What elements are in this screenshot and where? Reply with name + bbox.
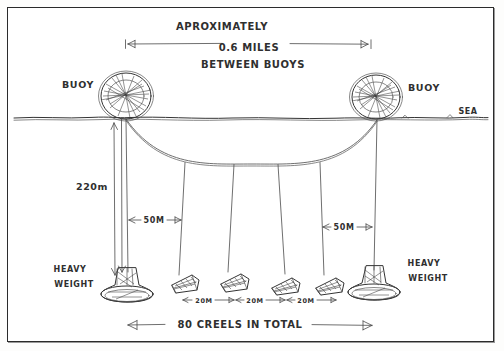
main-rope-catenary bbox=[126, 119, 377, 166]
heavy-weight-right bbox=[348, 266, 400, 300]
span-label-line2: 0.6 MILES bbox=[219, 42, 280, 53]
creel-gap-label-2: 20M bbox=[246, 297, 263, 305]
sea-label: SEA bbox=[458, 107, 477, 116]
total-label: 80 CREELS IN TOTAL bbox=[177, 319, 302, 330]
depth-dimension bbox=[111, 123, 119, 275]
diagram-canvas: APROXIMATELY 0.6 MILES BETWEEN BUOYS SEA… bbox=[0, 0, 504, 351]
buoy-left bbox=[99, 71, 154, 121]
creel-2 bbox=[221, 274, 249, 292]
depth-label: 220m bbox=[76, 181, 108, 192]
sea-surface-line bbox=[14, 115, 488, 121]
creel-gap-label-3: 20M bbox=[297, 297, 314, 305]
heavy-weight-right-label-1: HEAVY bbox=[408, 259, 441, 268]
creel-gap-label-1: 20M bbox=[195, 297, 212, 305]
buoy-left-label: BUOY bbox=[62, 79, 94, 90]
drawing-sheet: APROXIMATELY 0.6 MILES BETWEEN BUOYS SEA… bbox=[0, 0, 504, 351]
buoy-right-label: BUOY bbox=[408, 82, 440, 93]
drop-lines bbox=[122, 119, 378, 275]
spacing-right-label: 50M bbox=[334, 223, 355, 232]
heavy-weight-right-label-2: WEIGHT bbox=[408, 274, 448, 283]
creel-3 bbox=[272, 278, 300, 295]
heavy-weight-left-label-2: WEIGHT bbox=[54, 280, 94, 289]
buoy-right bbox=[350, 73, 403, 121]
heavy-weight-left bbox=[101, 266, 153, 302]
span-label-line1: APROXIMATELY bbox=[176, 21, 268, 32]
heavy-weight-left-label-1: HEAVY bbox=[54, 265, 87, 274]
spacing-left-label: 50M bbox=[144, 216, 165, 225]
span-label-line3: BETWEEN BUOYS bbox=[201, 59, 305, 70]
creel-4 bbox=[316, 278, 344, 295]
creel-1 bbox=[172, 275, 199, 293]
